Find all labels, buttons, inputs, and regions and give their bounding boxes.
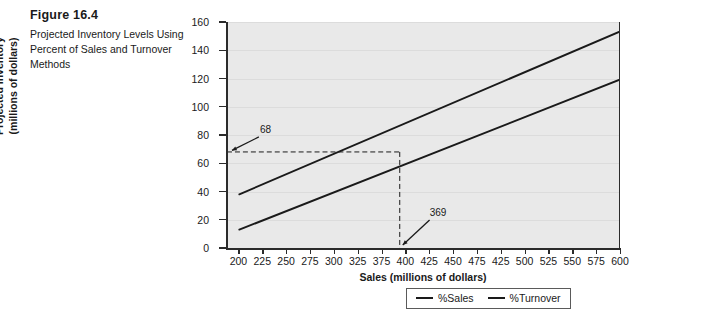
annotation-arrow-369 bbox=[403, 220, 430, 245]
x-axis-tick bbox=[286, 248, 287, 254]
legend-item-sales: %Sales bbox=[416, 292, 474, 304]
x-axis-tick-label: 400 bbox=[397, 255, 415, 267]
x-axis-tick-label: 275 bbox=[301, 255, 319, 267]
y-axis-tick-label: 80 bbox=[197, 129, 209, 141]
x-axis-tick-label: 325 bbox=[349, 255, 367, 267]
x-axis-tick bbox=[477, 248, 478, 254]
y-axis-tick bbox=[219, 21, 226, 22]
x-axis-tick bbox=[262, 248, 263, 254]
x-axis-tick-label: 475 bbox=[468, 255, 486, 267]
y-axis-tick-label: 140 bbox=[191, 44, 209, 56]
x-axis-title: Sales (millions of dollars) bbox=[226, 271, 620, 283]
y-axis-tick-label: 20 bbox=[197, 214, 209, 226]
y-axis-tick bbox=[219, 106, 226, 107]
y-axis-tick-label: 100 bbox=[191, 101, 209, 113]
x-axis-tick-label: 450 bbox=[444, 255, 462, 267]
annotation-369-label: 369 bbox=[430, 207, 447, 218]
y-axis-tick bbox=[219, 78, 226, 79]
y-axis-tick bbox=[219, 50, 226, 51]
x-axis-tick-label: 200 bbox=[230, 255, 248, 267]
x-axis-tick bbox=[596, 248, 597, 254]
y-axis-line bbox=[226, 22, 228, 248]
data-series-layer bbox=[227, 22, 619, 248]
x-axis-tick bbox=[548, 248, 549, 254]
y-axis-tick-label: 40 bbox=[197, 186, 209, 198]
x-axis-tick bbox=[310, 248, 311, 254]
x-axis-tick-label: 225 bbox=[253, 255, 271, 267]
x-axis-tick bbox=[358, 248, 359, 254]
y-axis-tick bbox=[219, 219, 226, 220]
x-axis-tick bbox=[525, 248, 526, 254]
x-axis-tick-label: 425 bbox=[420, 255, 438, 267]
y-axis-tick-label: 0 bbox=[203, 242, 209, 254]
x-axis-tick bbox=[572, 248, 573, 254]
y-axis-tick-label: 60 bbox=[197, 157, 209, 169]
x-axis-tick-label: 575 bbox=[587, 255, 605, 267]
y-axis-tick bbox=[219, 247, 226, 248]
x-axis-tick bbox=[429, 248, 430, 254]
x-axis-tick-label: 600 bbox=[611, 255, 629, 267]
y-axis-tick-label: 120 bbox=[191, 73, 209, 85]
y-axis-tick bbox=[219, 134, 226, 135]
annotation-68-label: 68 bbox=[260, 124, 271, 135]
y-axis-tick bbox=[219, 191, 226, 192]
legend-label-sales: %Sales bbox=[438, 292, 474, 304]
x-axis-tick-label: 525 bbox=[540, 255, 558, 267]
y-axis-tick bbox=[219, 163, 226, 164]
x-axis-tick bbox=[620, 248, 621, 254]
legend-label-turnover: %Turnover bbox=[510, 292, 561, 304]
x-axis-tick-label: 250 bbox=[277, 255, 295, 267]
y-axis-tick-label: 160 bbox=[191, 16, 209, 28]
x-axis-tick bbox=[334, 248, 335, 254]
x-axis-tick bbox=[501, 248, 502, 254]
x-axis-tick-label: 500 bbox=[516, 255, 534, 267]
series-line-sales bbox=[239, 32, 619, 194]
x-axis-tick-label: 300 bbox=[325, 255, 343, 267]
chart-figure: Projected Inventory (millions of dollars… bbox=[0, 0, 724, 323]
legend-line-icon-sales bbox=[416, 297, 433, 299]
x-axis-tick-label: 375 bbox=[373, 255, 391, 267]
x-axis-tick bbox=[453, 248, 454, 254]
legend-item-turnover: %Turnover bbox=[488, 292, 561, 304]
plot-area bbox=[226, 22, 620, 248]
annotation-arrow-68 bbox=[232, 137, 259, 151]
x-axis-tick bbox=[382, 248, 383, 254]
legend-line-icon-turnover bbox=[488, 297, 505, 299]
y-axis-labels: 020406080100120140160 bbox=[0, 0, 219, 323]
x-axis-tick bbox=[405, 248, 406, 254]
x-axis-tick-label: 425 bbox=[492, 255, 510, 267]
chart-legend: %Sales %Turnover bbox=[406, 288, 571, 309]
x-axis-tick-label: 550 bbox=[564, 255, 582, 267]
x-axis-tick bbox=[238, 248, 239, 254]
x-axis-line bbox=[226, 248, 620, 250]
